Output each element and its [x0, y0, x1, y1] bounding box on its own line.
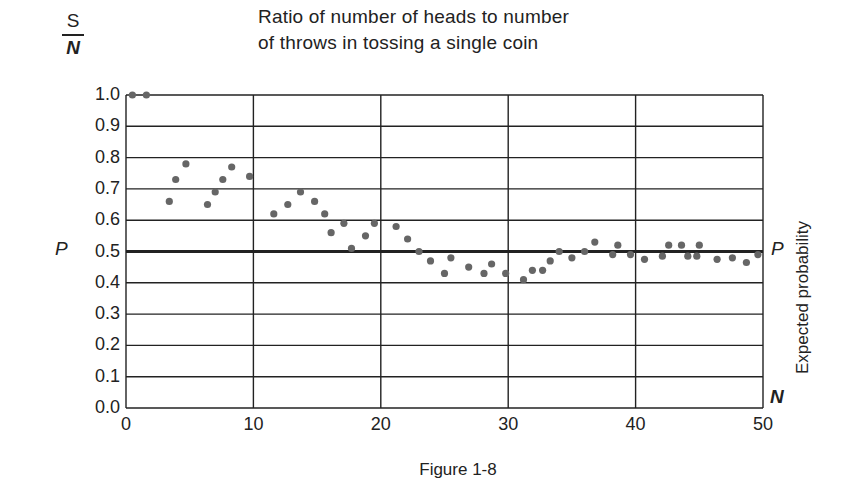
data-point: [204, 201, 211, 208]
y-tick-label: 0.6: [80, 209, 120, 230]
y-tick-label: 0.8: [80, 147, 120, 168]
data-point: [427, 257, 434, 264]
data-point: [529, 267, 536, 274]
data-point: [556, 248, 563, 255]
data-point: [693, 253, 700, 260]
x-tick-label: 0: [106, 414, 146, 435]
data-point: [219, 176, 226, 183]
y-tick-label: 0.7: [80, 178, 120, 199]
data-point: [754, 251, 761, 258]
data-point: [321, 210, 328, 217]
data-point: [311, 198, 318, 205]
data-point: [480, 270, 487, 277]
data-point: [547, 257, 554, 264]
y-tick-label: 0.3: [80, 303, 120, 324]
data-point: [520, 276, 527, 283]
data-point: [340, 220, 347, 227]
data-point: [228, 163, 235, 170]
data-point: [362, 232, 369, 239]
data-point: [465, 264, 472, 271]
data-points: [129, 91, 762, 283]
p-label-left: P: [55, 238, 68, 260]
data-point: [212, 188, 219, 195]
y-tick-label: 0.9: [80, 115, 120, 136]
data-point: [568, 254, 575, 261]
data-point: [297, 188, 304, 195]
data-point: [665, 242, 672, 249]
data-point: [627, 251, 634, 258]
data-point: [488, 260, 495, 267]
data-point: [714, 256, 721, 263]
data-point: [270, 210, 277, 217]
data-point: [172, 176, 179, 183]
data-point: [371, 220, 378, 227]
data-point: [614, 242, 621, 249]
data-point: [696, 242, 703, 249]
data-point: [659, 253, 666, 260]
data-point: [404, 235, 411, 242]
x-tick-label: 40: [616, 414, 656, 435]
x-tick-label: 30: [488, 414, 528, 435]
y-tick-label: 0.1: [80, 366, 120, 387]
data-point: [129, 91, 136, 98]
x-tick-label: 10: [233, 414, 273, 435]
data-point: [591, 239, 598, 246]
y-tick-label: 0.5: [80, 241, 120, 262]
y-tick-label: 0.4: [80, 272, 120, 293]
data-point: [678, 242, 685, 249]
y-tick-label: 0.2: [80, 334, 120, 355]
data-point: [166, 198, 173, 205]
data-point: [441, 270, 448, 277]
x-axis-label: N: [770, 386, 784, 408]
data-point: [348, 245, 355, 252]
data-point: [246, 173, 253, 180]
data-point: [143, 91, 150, 98]
data-point: [539, 267, 546, 274]
data-point: [743, 259, 750, 266]
data-point: [609, 251, 616, 258]
data-point: [415, 248, 422, 255]
x-tick-label: 50: [743, 414, 783, 435]
right-axis-label: Expected probability: [793, 221, 813, 374]
p-label-right: P: [771, 238, 784, 260]
data-point: [684, 253, 691, 260]
data-point: [729, 254, 736, 261]
data-point: [182, 160, 189, 167]
data-point: [284, 201, 291, 208]
data-point: [502, 270, 509, 277]
grid-lines: [126, 95, 763, 408]
y-tick-label: 1.0: [80, 84, 120, 105]
data-point: [328, 229, 335, 236]
data-point: [447, 254, 454, 261]
data-point: [393, 223, 400, 230]
x-tick-label: 20: [361, 414, 401, 435]
figure-caption: Figure 1-8: [0, 460, 856, 480]
data-point: [581, 248, 588, 255]
data-point: [641, 256, 648, 263]
